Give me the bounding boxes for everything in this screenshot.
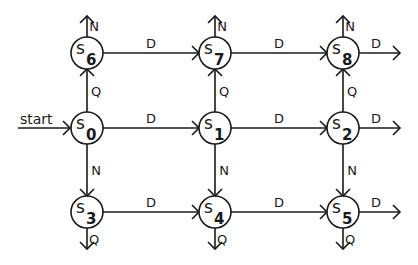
- transition-s3-s4: D: [103, 195, 199, 219]
- transition-s2-s5: N: [336, 144, 357, 196]
- transition-label: Q: [91, 84, 101, 99]
- exit-transition-s2-right: D: [359, 111, 400, 135]
- nodes-layer: s6s7s8s0s1s2s3s4s5: [71, 37, 359, 228]
- transition-label: D: [146, 111, 156, 126]
- transition-label: D: [146, 195, 156, 210]
- transition-s0-s1: D: [103, 111, 199, 135]
- transition-label: D: [274, 195, 284, 210]
- transition-label: N: [89, 19, 99, 34]
- exit-transition-s8-right: D: [359, 36, 400, 60]
- transition-s1-s4: N: [208, 144, 229, 196]
- state-node-s8: s8: [327, 37, 359, 69]
- transition-label: Q: [219, 84, 229, 99]
- exit-transition-s4-down: Q: [208, 228, 227, 249]
- state-subscript: 0: [86, 126, 96, 144]
- transition-label: Q: [345, 232, 355, 247]
- transition-label: D: [274, 111, 284, 126]
- exit-transition-s6-up: N: [80, 16, 99, 37]
- transition-label: D: [371, 195, 381, 210]
- state-node-s6: s6: [71, 37, 103, 69]
- state-subscript: 8: [342, 51, 352, 69]
- state-name: s: [204, 197, 213, 217]
- transition-label: Q: [89, 232, 99, 247]
- transition-s2-s8: Q: [336, 69, 357, 112]
- state-subscript: 6: [86, 51, 96, 69]
- transition-label: Q: [217, 232, 227, 247]
- state-node-s4: s4: [199, 196, 231, 228]
- state-subscript: 1: [214, 126, 224, 144]
- transition-label: N: [219, 163, 229, 178]
- transition-s0-s6: Q: [80, 69, 101, 112]
- start-arrow: start: [18, 111, 70, 135]
- state-subscript: 7: [214, 51, 224, 69]
- state-name: s: [76, 113, 85, 133]
- exit-transition-s8-up: N: [336, 16, 355, 37]
- transition-label: D: [371, 111, 381, 126]
- state-subscript: 4: [214, 210, 224, 228]
- state-node-s7: s7: [199, 37, 231, 69]
- state-node-s2: s2: [327, 112, 359, 144]
- state-name: s: [76, 197, 85, 217]
- transition-label: Q: [347, 84, 357, 99]
- state-name: s: [204, 113, 213, 133]
- transition-label: N: [345, 19, 355, 34]
- transition-s1-s7: Q: [208, 69, 229, 112]
- transition-s4-s5: D: [231, 195, 327, 219]
- transition-label: N: [347, 163, 357, 178]
- state-diagram-canvas: DDDDDDQQQNNNNNNDDDQQQ s6s7s8s0s1s2s3s4s5…: [0, 0, 418, 265]
- state-node-s5: s5: [327, 196, 359, 228]
- transition-label: D: [371, 36, 381, 51]
- transition-label: N: [91, 163, 101, 178]
- state-node-s0: s0: [71, 112, 103, 144]
- exit-transition-s5-right: D: [359, 195, 400, 219]
- transition-s7-s8: D: [231, 36, 327, 60]
- state-subscript: 2: [342, 126, 352, 144]
- state-name: s: [204, 38, 213, 58]
- transition-s6-s7: D: [103, 36, 199, 60]
- state-name: s: [332, 38, 341, 58]
- transition-s0-s3: N: [80, 144, 101, 196]
- state-name: s: [76, 38, 85, 58]
- transition-s1-s2: D: [231, 111, 327, 135]
- transition-label: N: [217, 19, 227, 34]
- exit-transition-s7-up: N: [208, 16, 227, 37]
- exit-transition-s5-down: Q: [336, 228, 355, 249]
- start-label: start: [20, 111, 53, 127]
- state-name: s: [332, 113, 341, 133]
- state-node-s3: s3: [71, 196, 103, 228]
- state-name: s: [332, 197, 341, 217]
- state-diagram: DDDDDDQQQNNNNNNDDDQQQ s6s7s8s0s1s2s3s4s5…: [0, 0, 418, 265]
- state-node-s1: s1: [199, 112, 231, 144]
- exit-transition-s3-down: Q: [80, 228, 99, 249]
- transition-label: D: [274, 36, 284, 51]
- transition-label: D: [146, 36, 156, 51]
- state-subscript: 5: [342, 210, 352, 228]
- state-subscript: 3: [86, 210, 96, 228]
